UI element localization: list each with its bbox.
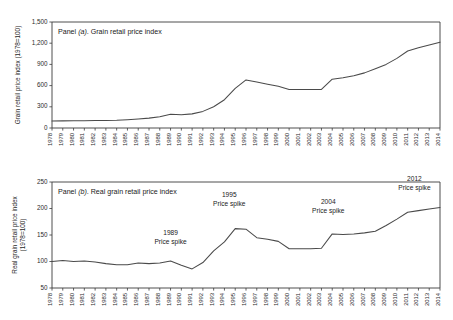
x-tick-label: 1992 [198, 293, 204, 306]
x-tick-label: 2002 [306, 133, 312, 146]
x-tick-label: 1982 [90, 133, 96, 146]
annotation-label: Price spike [398, 184, 431, 192]
x-tick-label: 1997 [252, 133, 258, 146]
x-tick-label: 1994 [219, 132, 225, 146]
x-tick-label: 1999 [273, 293, 279, 306]
x-tick-label: 1995 [230, 292, 236, 306]
panel-b-x-axis: 1978197919801981198219831984198519861987… [47, 288, 441, 306]
x-tick-label: 1989 [166, 133, 172, 146]
panel-a-frame [52, 22, 440, 128]
x-tick-label: 1987 [144, 133, 150, 146]
x-tick-label: 1980 [69, 132, 75, 146]
x-tick-label: 1993 [209, 292, 215, 306]
x-tick-label: 1978 [47, 132, 53, 146]
y-tick-label: 250 [37, 178, 48, 185]
x-tick-label: 1989 [166, 293, 172, 306]
x-tick-label: 2002 [306, 293, 312, 306]
x-tick-label: 2005 [338, 292, 344, 306]
panel-b-y-axis: 50100150200250 [37, 178, 52, 291]
x-tick-label: 2009 [381, 133, 387, 146]
x-tick-label: 2014 [435, 292, 441, 306]
x-tick-label: 2009 [381, 293, 387, 306]
x-tick-label: 1981 [79, 293, 85, 306]
x-tick-label: 1991 [187, 133, 193, 146]
panel-a-y-axis-title: Grain retail price index (1978=100) [14, 26, 22, 125]
x-tick-label: 1985 [122, 292, 128, 306]
x-tick-label: 1996 [241, 292, 247, 306]
x-tick-label: 2000 [284, 292, 290, 306]
y-tick-label: 150 [37, 231, 48, 238]
x-tick-label: 1996 [241, 132, 247, 146]
panel-b-y-axis-title-line2: (1978=100) [19, 219, 27, 252]
x-tick-label: 1979 [58, 133, 64, 146]
y-tick-label: 50 [40, 284, 48, 291]
panel-b-series-line [52, 207, 440, 268]
x-tick-label: 1978 [47, 292, 53, 306]
y-tick-label: 1,200 [32, 39, 48, 46]
x-tick-label: 2008 [370, 292, 376, 306]
x-tick-label: 2012 [413, 293, 419, 306]
panel-a-plot: 03006009001,2001,500 1978197919801981198… [0, 0, 453, 160]
x-tick-label: 1981 [79, 133, 85, 146]
x-tick-label: 2004 [327, 292, 333, 306]
x-tick-label: 1987 [144, 293, 150, 306]
x-tick-label: 1994 [219, 292, 225, 306]
annotation-year: 2012 [407, 175, 422, 182]
panel-a: 03006009001,2001,500 1978197919801981198… [0, 0, 453, 160]
panel-b-frame [52, 182, 440, 288]
annotation-label: Price spike [154, 238, 187, 246]
x-tick-label: 2014 [435, 132, 441, 146]
panel-b-caption: Panel (b). Real grain retail price index [58, 188, 177, 196]
x-tick-label: 2000 [284, 132, 290, 146]
panel-b: 50100150200250 1978197919801981198219831… [0, 160, 453, 320]
x-tick-label: 1986 [133, 292, 139, 306]
y-tick-label: 100 [37, 257, 48, 264]
x-tick-label: 2008 [370, 132, 376, 146]
annotation-year: 1995 [222, 191, 237, 198]
x-tick-label: 1980 [69, 292, 75, 306]
panel-a-caption: Panel (a). Grain retail price index [58, 28, 162, 36]
x-tick-label: 1998 [263, 132, 269, 146]
x-tick-label: 2007 [360, 293, 366, 306]
panel-b-y-axis-title-line1: Real grain retail price index [11, 195, 19, 273]
annotation-year: 1989 [163, 229, 178, 236]
x-tick-label: 1984 [112, 132, 118, 146]
x-tick-label: 2003 [316, 292, 322, 306]
x-tick-label: 1982 [90, 293, 96, 306]
x-tick-label: 2006 [349, 132, 355, 146]
x-tick-label: 1998 [263, 292, 269, 306]
x-tick-label: 2012 [413, 133, 419, 146]
panel-a-y-axis: 03006009001,2001,500 [32, 18, 52, 131]
y-tick-label: 200 [37, 204, 48, 211]
x-tick-label: 2013 [424, 132, 430, 146]
y-tick-label: 600 [37, 81, 48, 88]
x-tick-label: 1988 [155, 132, 161, 146]
x-tick-label: 1979 [58, 293, 64, 306]
x-tick-label: 1995 [230, 132, 236, 146]
x-tick-label: 1993 [209, 132, 215, 146]
x-tick-label: 1990 [176, 292, 182, 306]
panel-b-annotations: 1989Price spike1995Price spike2004Price … [154, 175, 430, 246]
x-tick-label: 1983 [101, 132, 107, 146]
x-tick-label: 2007 [360, 133, 366, 146]
annotation-label: Price spike [213, 200, 246, 208]
figure-container: 03006009001,2001,500 1978197919801981198… [0, 0, 453, 320]
x-tick-label: 2005 [338, 132, 344, 146]
x-tick-label: 2003 [316, 132, 322, 146]
annotation-label: Price spike [312, 207, 345, 215]
y-tick-label: 300 [37, 102, 48, 109]
x-tick-label: 2010 [392, 292, 398, 306]
y-tick-label: 900 [37, 60, 48, 67]
x-tick-label: 2004 [327, 132, 333, 146]
x-tick-label: 1992 [198, 133, 204, 146]
x-tick-label: 1991 [187, 293, 193, 306]
x-tick-label: 1984 [112, 292, 118, 306]
y-tick-label: 0 [44, 124, 48, 131]
x-tick-label: 2011 [403, 293, 409, 306]
x-tick-label: 1986 [133, 132, 139, 146]
x-tick-label: 2006 [349, 292, 355, 306]
annotation-year: 2004 [321, 198, 336, 205]
x-tick-label: 2001 [295, 133, 301, 146]
x-tick-label: 1990 [176, 132, 182, 146]
x-tick-label: 1983 [101, 292, 107, 306]
